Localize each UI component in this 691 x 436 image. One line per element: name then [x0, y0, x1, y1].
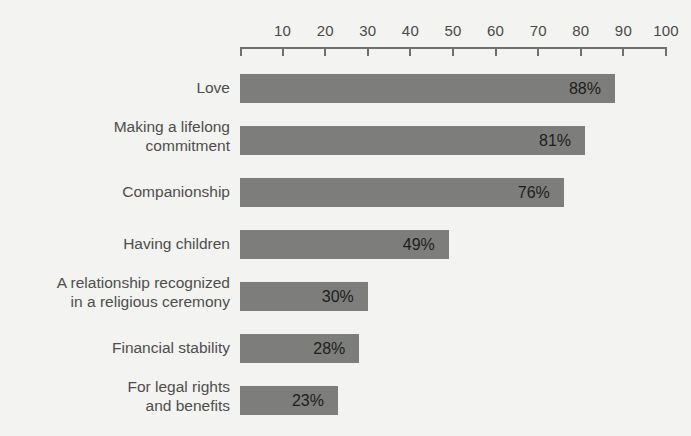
axis-tick-label-10: 10: [274, 22, 291, 39]
bar-row: A relationship recognized in a religious…: [0, 282, 691, 311]
axis-tick-10: [282, 47, 284, 56]
axis-tick-30: [367, 47, 369, 56]
bar-value-label: 76%: [518, 178, 550, 207]
bar-value-label: 49%: [403, 230, 435, 259]
bar-row: Love88%: [0, 74, 691, 103]
bar: [240, 178, 564, 207]
bar-category-label: A relationship recognized in a religious…: [5, 273, 230, 311]
axis-tick-label-70: 70: [530, 22, 547, 39]
axis-tick-80: [580, 47, 582, 56]
bar-category-label: For legal rights and benefits: [5, 377, 230, 415]
bar: [240, 74, 615, 103]
axis-tick-90: [622, 47, 624, 56]
axis-tick-100: [665, 47, 667, 56]
bar-category-label: Financial stability: [5, 338, 230, 357]
axis-tick-label-20: 20: [317, 22, 334, 39]
axis-tick-70: [537, 47, 539, 56]
bar-category-label: Making a lifelong commitment: [5, 117, 230, 155]
bar-value-label: 28%: [313, 334, 345, 363]
axis-tick-60: [495, 47, 497, 56]
bar: [240, 126, 585, 155]
bar-row: Financial stability28%: [0, 334, 691, 363]
bar-value-label: 88%: [569, 74, 601, 103]
axis-tick-label-40: 40: [402, 22, 419, 39]
axis-tick-label-90: 90: [615, 22, 632, 39]
chart-x-axis: 102030405060708090100: [240, 22, 666, 56]
axis-tick-50: [452, 47, 454, 56]
bar-value-label: 30%: [322, 282, 354, 311]
bar-row: Having children49%: [0, 230, 691, 259]
axis-tick-label-100: 100: [653, 22, 679, 39]
bar-row: For legal rights and benefits23%: [0, 386, 691, 415]
axis-tick-label-50: 50: [444, 22, 461, 39]
bar-value-label: 23%: [292, 386, 324, 415]
bar-value-label: 81%: [539, 126, 571, 155]
axis-tick-origin: [240, 47, 242, 56]
bar-row: Making a lifelong commitment81%: [0, 126, 691, 155]
bar-category-label: Companionship: [5, 182, 230, 201]
horizontal-bar-chart: 102030405060708090100 Love88%Making a li…: [0, 0, 691, 436]
axis-tick-label-30: 30: [359, 22, 376, 39]
axis-tick-20: [324, 47, 326, 56]
bar-category-label: Having children: [5, 234, 230, 253]
axis-tick-40: [409, 47, 411, 56]
axis-tick-label-60: 60: [487, 22, 504, 39]
bar-category-label: Love: [5, 78, 230, 97]
bar-row: Companionship76%: [0, 178, 691, 207]
axis-tick-label-80: 80: [572, 22, 589, 39]
